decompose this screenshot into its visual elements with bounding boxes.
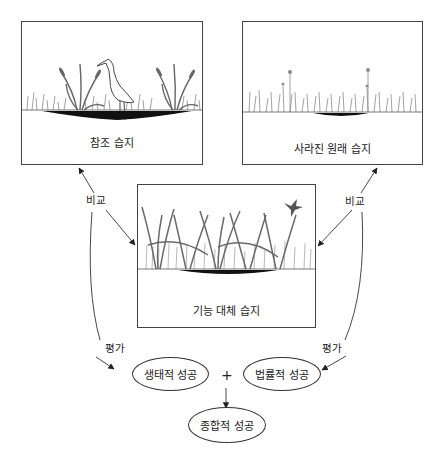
evaluate-right-label: 평가 [322,340,342,355]
reference-wetland-panel: 참조 습지 [21,21,203,165]
compare-left-label: 비교 [86,192,106,207]
ecological-success-node: 생태적 성공 [132,357,209,391]
flying-bird-icon [284,199,303,217]
plus-sign: + [221,367,233,383]
overall-success-node: 종합적 성공 [188,407,266,443]
overall-success-label: 종합적 성공 [200,417,254,433]
lost-wetland-panel: 사라진 원래 습지 [242,21,423,165]
replacement-wetland-label: 기능 대체 습지 [138,302,315,318]
legal-success-label: 법률적 성공 [255,366,309,382]
ecological-success-label: 생태적 성공 [144,366,198,382]
compare-right-label: 비교 [345,193,365,208]
replacement-wetland-panel: 기능 대체 습지 [137,184,316,328]
heron-icon [97,59,134,120]
evaluate-left-label: 평가 [105,340,125,355]
lost-wetland-label: 사라진 원래 습지 [243,140,422,156]
reference-wetland-label: 참조 습지 [22,134,202,150]
legal-success-node: 법률적 성공 [243,357,321,391]
